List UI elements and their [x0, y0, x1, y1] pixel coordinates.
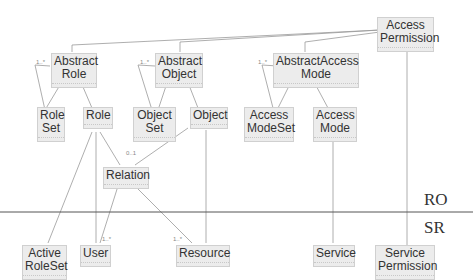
- class-abstract-role: Abstract Role: [51, 53, 97, 88]
- class-object: Object: [190, 107, 228, 129]
- class-resource: Resource: [176, 245, 230, 267]
- class-service: Service: [313, 245, 355, 267]
- class-object-set: Object Set: [133, 107, 176, 142]
- class-active-role-set: Active RoleSet: [22, 245, 67, 280]
- class-role: Role: [83, 107, 113, 129]
- class-abstract-access-mode: AbstractAccess Mode: [273, 53, 359, 88]
- class-role-set: Role Set: [37, 107, 65, 142]
- multiplicity: 1..*: [140, 59, 149, 65]
- multiplicity: 1..*: [36, 59, 45, 65]
- multiplicity: 1..*: [102, 236, 111, 242]
- layer-label-ro: RO: [424, 190, 448, 210]
- class-abstract-object: Abstract Object: [155, 53, 203, 88]
- class-access-permission: Access Permission: [377, 17, 434, 52]
- class-access-mode: Access Mode: [313, 107, 357, 142]
- class-relation: Relation: [103, 167, 149, 189]
- multiplicity: 1..*: [173, 236, 182, 242]
- multiplicity: 0..1: [126, 150, 136, 156]
- multiplicity: 1..*: [258, 59, 267, 65]
- layer-label-sr: SR: [424, 218, 445, 238]
- class-user: User: [80, 245, 111, 267]
- class-access-mode-set: Access ModeSet: [244, 107, 294, 142]
- class-service-permission: Service Permission: [375, 245, 435, 280]
